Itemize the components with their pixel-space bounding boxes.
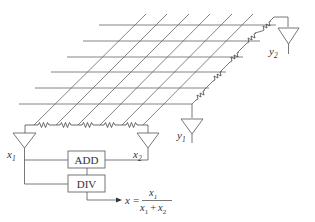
label-y2: y2 [268, 45, 278, 60]
label-y1: y1 [176, 129, 186, 144]
arrow-head-icon [116, 198, 122, 203]
formula-denominator: x1+x2 [139, 202, 167, 216]
add-label: ADD [75, 154, 99, 166]
diagonal-grid-lines [34, 14, 253, 125]
div-block: DIV [68, 175, 105, 192]
amplifier-y2: y2 [268, 28, 299, 60]
bottom-resistor-chain [25, 123, 148, 134]
div-label: DIV [77, 178, 97, 190]
svg-text:=: = [133, 194, 139, 206]
svg-text:x: x [124, 194, 130, 206]
formula-numerator: x1 [148, 187, 157, 201]
amplifier-y1: y1 [176, 104, 203, 144]
add-block: ADD [68, 151, 105, 168]
output-arrow [87, 192, 122, 203]
amplifier-x2: x2 [105, 133, 159, 163]
horizontal-grid-lines [19, 25, 276, 104]
resistive-grid-diagram: y2 y1 x1 x2 ADD DIV x = [0, 0, 315, 222]
label-x1: x1 [6, 148, 16, 163]
output-formula: x = x1 x1+x2 [124, 187, 172, 216]
amplifier-x1: x1 [6, 133, 68, 184]
